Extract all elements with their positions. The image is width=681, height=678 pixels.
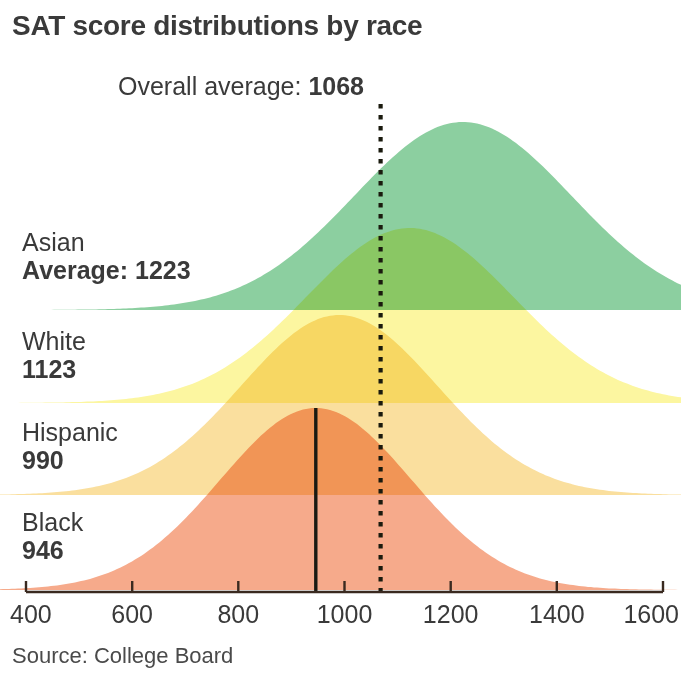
series-value-hispanic: 990	[22, 446, 118, 474]
x-axis-tick-1400: 1400	[529, 600, 585, 629]
series-name-asian: Asian	[22, 228, 191, 256]
series-label-asian: Asian Average: 1223	[22, 228, 191, 284]
x-axis-tick-1200: 1200	[423, 600, 479, 629]
series-label-white: White 1123	[22, 327, 86, 383]
series-value-asian: 1223	[135, 256, 191, 284]
series-value-black: 946	[22, 536, 83, 564]
distribution-plot	[0, 0, 681, 678]
x-axis-tick-800: 800	[217, 600, 259, 629]
x-axis-tick-1000: 1000	[317, 600, 373, 629]
x-axis-tick-1600: 1600	[623, 600, 679, 629]
x-axis-tick-600: 600	[111, 600, 153, 629]
series-name-white: White	[22, 327, 86, 355]
chart-container: SAT score distributions by race Overall …	[0, 0, 681, 678]
series-name-black: Black	[22, 508, 83, 536]
series-value-white: 1123	[22, 355, 86, 383]
source-note: Source: College Board	[12, 643, 233, 669]
series-label-black: Black 946	[22, 508, 83, 564]
x-axis-tick-400: 400	[10, 600, 52, 629]
series-name-hispanic: Hispanic	[22, 418, 118, 446]
series-label-hispanic: Hispanic 990	[22, 418, 118, 474]
series-prefix-asian: Average:	[22, 256, 128, 284]
